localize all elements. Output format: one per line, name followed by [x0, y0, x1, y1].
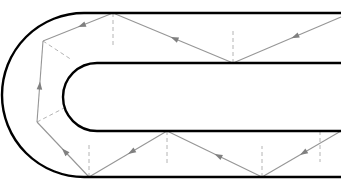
ray-segment-lower-3-arrowhead-icon: [215, 154, 223, 160]
light-pipe-diagram: [0, 0, 354, 190]
ray-segment-upper-3-arrowhead-icon: [78, 21, 86, 27]
inner-boundary: [63, 63, 341, 131]
ray-segment-entry-upper: [233, 17, 341, 63]
ray-segment-entry-upper-arrowhead-icon: [291, 32, 299, 38]
light-rays-group: [37, 13, 341, 177]
ray-segment-exit-lower-arrowhead-icon: [300, 148, 308, 154]
ray-segment-lower-2-arrowhead-icon: [128, 148, 136, 154]
ray-diagram-canvas: [0, 0, 354, 190]
normal-line-bend-lower: [37, 106, 68, 122]
normal-line-bend-upper: [43, 41, 72, 60]
ray-segment-upper-2-arrowhead-icon: [171, 37, 179, 43]
